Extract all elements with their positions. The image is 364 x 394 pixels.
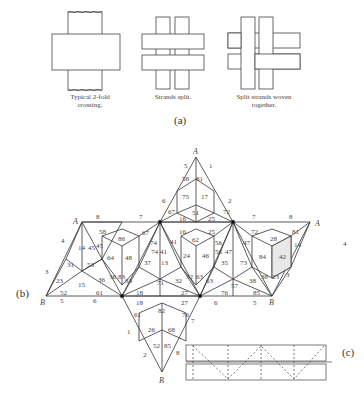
strand-arrow-label: 8: [289, 213, 293, 221]
part-a-label: (a): [174, 114, 186, 126]
strand-arrow-label: 8: [176, 349, 180, 357]
strand-arrow-label: 1: [209, 162, 213, 170]
cell-number: 46: [202, 252, 210, 260]
part-a-strand-crossings: [52, 12, 300, 91]
cell-number: 56: [215, 239, 223, 247]
svg-text:A: A: [192, 147, 198, 156]
cell-number: 13: [161, 259, 169, 267]
cell-number: 61: [96, 289, 104, 297]
strand-arrow-label: 5: [184, 162, 188, 170]
part-c-strip-diagram: [186, 345, 332, 380]
cell-number: 14: [78, 244, 86, 252]
svg-text:A: A: [72, 217, 78, 226]
cell-number: 38: [261, 273, 269, 281]
cell-number: 27: [181, 299, 189, 307]
strand-arrow-label: 8: [96, 213, 100, 221]
caption-line: together.: [222, 101, 306, 109]
cell-number: 83: [125, 277, 133, 285]
strand-arrow-label: 1: [127, 328, 131, 336]
cell-number: 31: [67, 261, 75, 269]
strand-arrow-label: 4: [61, 237, 65, 245]
cell-number: 57: [231, 282, 239, 290]
strand-arrow-label: 4: [343, 240, 347, 248]
caption-strands-split: Strands split.: [138, 93, 208, 101]
cell-number: 38: [249, 277, 257, 285]
cell-number: 45: [96, 242, 104, 250]
cell-number: 84: [259, 253, 267, 261]
cell-number: 72: [251, 228, 259, 236]
cell-number: 23: [56, 277, 64, 285]
cell-number: 24: [183, 252, 191, 260]
caption-line: Split strands woven: [222, 93, 306, 101]
cell-number: 76: [221, 289, 229, 297]
cell-number: 64: [107, 254, 115, 262]
part-c-label: (c): [342, 346, 354, 358]
strand-arrow-label: 6: [162, 197, 166, 205]
cell-number: 52: [153, 342, 161, 350]
cell-number: 74: [151, 248, 159, 256]
cell-number: 68: [168, 326, 176, 334]
cell-number: 52: [60, 289, 68, 297]
strand-arrow-label: 7: [191, 317, 195, 325]
cell-number: 85: [164, 342, 172, 350]
cell-number: 28: [270, 235, 278, 243]
cell-number: 86: [118, 235, 126, 243]
strand-arrow-label: 2: [143, 351, 147, 359]
cell-number: 61: [134, 311, 142, 319]
cell-number: 81: [292, 228, 300, 236]
cell-number: 73: [240, 259, 248, 267]
cell-number: 67: [142, 229, 150, 237]
cell-number: 51: [192, 209, 200, 217]
strand-arrow-label: 2: [228, 197, 232, 205]
cell-number: 25: [208, 228, 216, 236]
strand-arrow-label: 7: [139, 213, 143, 221]
caption-line: crossing.: [50, 101, 130, 109]
cell-number: 47: [243, 239, 251, 247]
caption-woven-strands: Split strands woven together.: [222, 93, 306, 109]
cell-number: 67: [168, 208, 176, 216]
cell-number: 32: [175, 277, 183, 285]
cell-number: 81: [196, 175, 204, 183]
cell-number: 72: [223, 208, 231, 216]
cell-number: 58: [182, 175, 190, 183]
cell-number: 85: [253, 289, 261, 297]
cell-number: 32: [186, 273, 194, 281]
cell-number: 36: [109, 273, 117, 281]
cell-number: 75: [182, 193, 190, 201]
svg-text:B: B: [40, 298, 45, 307]
cell-number: 41: [160, 248, 168, 256]
cell-number: 42: [279, 253, 287, 261]
strand-arrow-label: 3: [45, 268, 49, 276]
part-b-label: (b): [16, 287, 29, 299]
strand-arrow-label: 5: [253, 299, 257, 307]
cell-number: 62: [192, 236, 200, 244]
strand-arrow-label: 6: [214, 299, 218, 307]
caption-typical-crossing: Typical 2-fold crossing.: [50, 93, 130, 109]
typical-crossing-diagram: [52, 12, 120, 91]
cell-number: 53: [87, 261, 95, 269]
cell-number: 82: [158, 307, 166, 315]
svg-text:B: B: [269, 298, 274, 307]
cell-number: 27: [181, 289, 189, 297]
cell-number: 47: [225, 248, 233, 256]
strands-split-diagram: [142, 17, 204, 89]
cell-number: 45: [88, 244, 96, 252]
cell-number: 14: [294, 241, 302, 249]
cell-number: 16: [179, 215, 187, 223]
cell-number: 63: [206, 277, 214, 285]
cell-number: 17: [201, 193, 209, 201]
cell-number: 26: [148, 326, 156, 334]
strand-arrow-label: 7: [252, 213, 256, 221]
part-b-net-diagram: [46, 157, 310, 372]
cell-number: 56: [215, 248, 223, 256]
woven-strands-diagram: [228, 17, 300, 89]
cell-number: 18: [136, 289, 144, 297]
cell-number: 71: [157, 279, 165, 287]
cell-number: 36: [98, 276, 106, 284]
cell-number: 41: [170, 238, 178, 246]
cell-number: 16: [179, 228, 187, 236]
cell-number: 35: [221, 259, 229, 267]
cell-number: 25: [208, 215, 216, 223]
svg-text:A: A: [314, 219, 320, 228]
cell-number: 15: [78, 281, 86, 289]
